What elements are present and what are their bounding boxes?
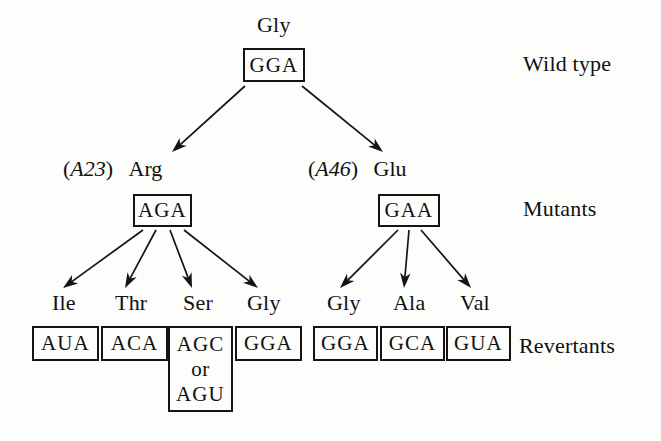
arrow-shaft bbox=[179, 86, 245, 145]
revertant-amino-acid-gly-right: Gly bbox=[327, 292, 361, 314]
figure-canvas: Wild typeMutantsRevertantsGlyGGA(A23) Ar… bbox=[0, 0, 661, 441]
allele-name: A46 bbox=[315, 156, 350, 181]
arrow-a23-to-ser bbox=[170, 230, 192, 288]
revertant-codon-box-ile: AUA bbox=[32, 326, 99, 361]
arrow-wt-to-a23 bbox=[172, 86, 245, 152]
codon-text: GCA bbox=[389, 331, 437, 356]
revertant-amino-acid-ile: Ile bbox=[52, 292, 76, 314]
wild-type-codon-box: GGA bbox=[243, 48, 305, 82]
codon-text: GGA bbox=[244, 331, 293, 356]
revertant-codon-box-val: GUA bbox=[446, 326, 511, 361]
arrow-a46-to-val bbox=[421, 230, 471, 288]
arrow-head bbox=[368, 138, 383, 152]
arrow-a46-to-ala bbox=[400, 230, 410, 288]
arrow-a46-to-gly bbox=[340, 230, 398, 288]
spacer bbox=[358, 156, 373, 181]
codon-text: AUA bbox=[41, 331, 90, 356]
codon-text: AGC bbox=[177, 332, 225, 357]
arrow-head bbox=[125, 272, 137, 288]
arrow-a23-to-thr bbox=[125, 230, 156, 288]
spacer bbox=[113, 156, 128, 181]
arrow-shaft bbox=[170, 230, 188, 279]
mutant-codon-box-a46-glu: GAA bbox=[378, 194, 440, 227]
stage-label-mutants: Mutants bbox=[523, 197, 597, 221]
revertant-amino-acid-gly-left: Gly bbox=[247, 292, 281, 314]
stage-label-revertants: Revertants bbox=[519, 334, 615, 358]
revertant-amino-acid-thr: Thr bbox=[115, 292, 147, 314]
arrow-wt-to-a46 bbox=[302, 86, 383, 152]
codon-text: AGU bbox=[176, 382, 225, 407]
codon-text: GAA bbox=[385, 198, 434, 223]
arrow-shaft bbox=[405, 230, 409, 278]
arrow-head bbox=[340, 274, 354, 288]
arrow-shaft bbox=[421, 230, 464, 280]
arrow-a23-to-gly bbox=[184, 230, 258, 288]
codon-text: GUA bbox=[454, 331, 503, 356]
arrow-head bbox=[243, 275, 258, 288]
arrow-a23-to-ile bbox=[63, 230, 143, 288]
arrow-head bbox=[63, 275, 78, 288]
allele-paren-close: ) bbox=[106, 156, 113, 181]
wild-type-amino-acid: Gly bbox=[257, 14, 291, 36]
arrow-shaft bbox=[302, 86, 375, 146]
arrow-head bbox=[182, 272, 192, 288]
codon-text: or bbox=[191, 357, 210, 382]
arrow-head bbox=[400, 273, 410, 288]
revertant-amino-acid-val: Val bbox=[460, 292, 490, 314]
revertant-codon-box-ser: AGCorAGU bbox=[168, 326, 233, 412]
arrow-shaft bbox=[184, 230, 250, 282]
stage-label-wild-type: Wild type bbox=[523, 52, 611, 76]
mutant-amino-acid: Glu bbox=[374, 156, 407, 181]
revertant-codon-box-ala: GCA bbox=[380, 326, 445, 361]
arrow-head bbox=[172, 138, 187, 152]
codon-text: GGA bbox=[321, 331, 370, 356]
arrow-shaft bbox=[71, 230, 143, 282]
arrow-shaft bbox=[347, 230, 398, 281]
revertant-codon-box-thr: ACA bbox=[101, 326, 168, 361]
revertant-codon-box-gly-left: GGA bbox=[235, 326, 302, 361]
mutant-amino-acid: Arg bbox=[129, 156, 163, 181]
allele-name: A23 bbox=[70, 156, 105, 181]
revertant-amino-acid-ala: Ala bbox=[393, 292, 425, 314]
codon-text: ACA bbox=[111, 331, 159, 356]
revertant-codon-box-gly-right: GGA bbox=[313, 326, 378, 361]
arrow-head bbox=[457, 273, 471, 288]
mutant-label-a46-glu: (A46) Glu bbox=[308, 158, 407, 180]
mutant-codon-box-a23-arg: AGA bbox=[133, 194, 192, 227]
codon-text: AGA bbox=[138, 198, 187, 223]
allele-paren-close: ) bbox=[351, 156, 358, 181]
arrow-shaft bbox=[130, 230, 156, 279]
codon-text: GGA bbox=[250, 53, 299, 78]
mutant-label-a23-arg: (A23) Arg bbox=[63, 158, 162, 180]
revertant-amino-acid-ser: Ser bbox=[183, 292, 213, 314]
